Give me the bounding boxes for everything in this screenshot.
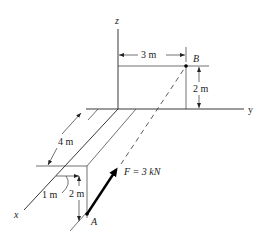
dim-4m-lower — [48, 148, 57, 165]
z-axis-label: z — [114, 15, 119, 26]
beam-edge-left — [88, 109, 98, 120]
point-A-label: A — [90, 216, 98, 227]
dim-4m-label: 4 m — [58, 136, 74, 147]
force-arrow — [87, 170, 116, 214]
dim-1m-leader — [62, 176, 68, 193]
dim-3m-label: 3 m — [141, 49, 157, 60]
dim-2m-B-label: 2 m — [193, 83, 209, 94]
dim-2m-A-label: 2 m — [69, 188, 85, 199]
force-vector-diagram: z y x B 3 m 2 m 4 m 1 m 2 m A F = 3 kN — [0, 0, 268, 246]
dim-4m-upper — [62, 113, 81, 134]
point-A — [85, 212, 89, 216]
x-axis-label: x — [13, 209, 19, 220]
y-axis-label: y — [248, 104, 253, 115]
beam-edge-middle — [87, 109, 136, 166]
force-label: F = 3 kN — [123, 166, 162, 177]
beam-edge-bottom — [70, 212, 87, 231]
point-B-label: B — [193, 53, 199, 64]
dim-1m-label: 1 m — [42, 189, 58, 200]
